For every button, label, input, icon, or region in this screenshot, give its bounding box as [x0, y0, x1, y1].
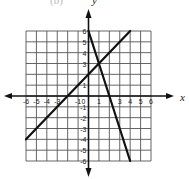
y-tick-label: 4: [83, 50, 87, 57]
x-axis-label: x: [179, 91, 185, 103]
y-tick-label: 6: [83, 28, 87, 35]
y-tick-label: 1: [83, 82, 87, 89]
y-tick-label: -2: [80, 115, 86, 122]
y-tick-label: -6: [80, 158, 86, 165]
x-tick-label: 1: [97, 98, 101, 105]
x-tick-label: 4: [128, 98, 132, 105]
coordinate-plane: -6-5-4-3-101345665431-1-2-3-4-5-6 x y: [0, 0, 189, 179]
y-axis-arrow-down-icon: [86, 168, 92, 177]
x-tick-label: 6: [149, 98, 153, 105]
y-tick-label: 5: [83, 39, 87, 46]
x-axis-arrow-right-icon: [166, 93, 174, 99]
x-tick-label: -4: [44, 98, 50, 105]
x-axis-arrow-left-icon: [4, 93, 12, 99]
y-tick-label: -1: [80, 104, 86, 111]
x-tick-label: -5: [33, 98, 39, 105]
y-tick-label: 3: [83, 61, 87, 68]
x-tick-label: 3: [118, 98, 122, 105]
y-axis-arrow-up-icon: [86, 9, 92, 18]
x-tick-label: 5: [139, 98, 143, 105]
y-tick-label: -3: [80, 126, 86, 133]
x-tick-label: -3: [54, 98, 60, 105]
x-tick-label: -6: [23, 98, 29, 105]
y-tick-label: -5: [80, 147, 86, 154]
y-tick-label: -4: [80, 136, 86, 143]
y-axis-label: y: [91, 0, 97, 6]
